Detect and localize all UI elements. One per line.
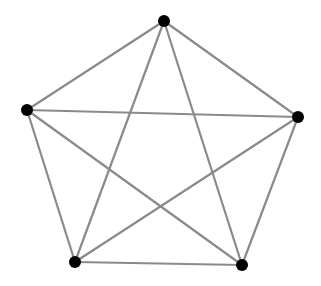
edge-n3-n4 bbox=[75, 117, 298, 262]
edge-n2-n4 bbox=[27, 110, 75, 262]
node-n4 bbox=[69, 256, 81, 268]
edge-n1-n5 bbox=[164, 21, 242, 265]
node-n5 bbox=[236, 259, 248, 271]
node-n3 bbox=[292, 111, 304, 123]
edge-n4-n5 bbox=[75, 262, 242, 265]
graph-diagram bbox=[0, 0, 321, 286]
edge-n3-n5 bbox=[242, 117, 298, 265]
node-layer bbox=[21, 15, 304, 271]
edge-n1-n4 bbox=[75, 21, 164, 262]
edge-n1-n3 bbox=[164, 21, 298, 117]
edge-n2-n3 bbox=[27, 110, 298, 117]
edge-n1-n2 bbox=[27, 21, 164, 110]
node-n1 bbox=[158, 15, 170, 27]
edge-n2-n5 bbox=[27, 110, 242, 265]
node-n2 bbox=[21, 104, 33, 116]
edge-layer bbox=[27, 21, 298, 265]
